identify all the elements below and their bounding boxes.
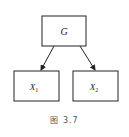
node-x1: X1 <box>14 71 59 101</box>
node-x2: X2 <box>73 71 118 101</box>
figure-caption: 图 3.7 <box>0 114 129 125</box>
svg-text:X1: X1 <box>29 82 39 93</box>
node-g-label: G <box>60 26 67 37</box>
svg-text:X2: X2 <box>89 82 99 93</box>
node-g: G <box>42 16 86 46</box>
edge-g-to-x2-arrow <box>80 46 95 70</box>
node-x2-subscript: 2 <box>95 87 98 93</box>
node-x1-subscript: 1 <box>35 87 38 93</box>
edge-g-to-x1-arrow <box>41 46 54 70</box>
